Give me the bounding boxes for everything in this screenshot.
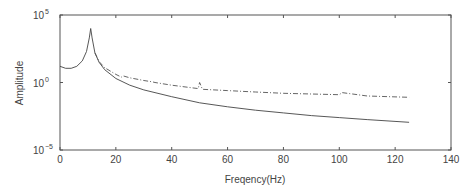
amplitude-frequency-chart: 020406080100120140 10510010−5 Freqency(H… <box>0 0 475 190</box>
series-layer <box>60 29 409 123</box>
y-axis-label: Amplitude <box>14 60 25 105</box>
y-tick-label: 10 <box>33 78 45 89</box>
x-tick-label: 80 <box>278 154 290 165</box>
x-tick-label: 0 <box>57 154 63 165</box>
x-tick-label: 60 <box>222 154 234 165</box>
plot-area <box>60 15 451 150</box>
series-dash-dot <box>95 53 409 98</box>
y-axis-ticks: 10510010−5 <box>33 8 451 156</box>
x-tick-label: 20 <box>110 154 122 165</box>
y-tick-label: 10 <box>33 10 45 21</box>
x-tick-label: 120 <box>387 154 404 165</box>
y-tick-exponent: 5 <box>45 8 49 15</box>
series-solid <box>60 29 409 123</box>
x-tick-label: 40 <box>166 154 178 165</box>
y-tick-exponent: −5 <box>45 143 53 150</box>
x-tick-label: 100 <box>331 154 348 165</box>
y-tick-label: 10 <box>33 145 45 156</box>
x-axis-ticks: 020406080100120140 <box>57 15 460 165</box>
x-axis-label: Freqency(Hz) <box>225 174 286 185</box>
plot-border <box>60 15 451 150</box>
y-tick-exponent: 0 <box>45 76 49 83</box>
x-tick-label: 140 <box>443 154 460 165</box>
